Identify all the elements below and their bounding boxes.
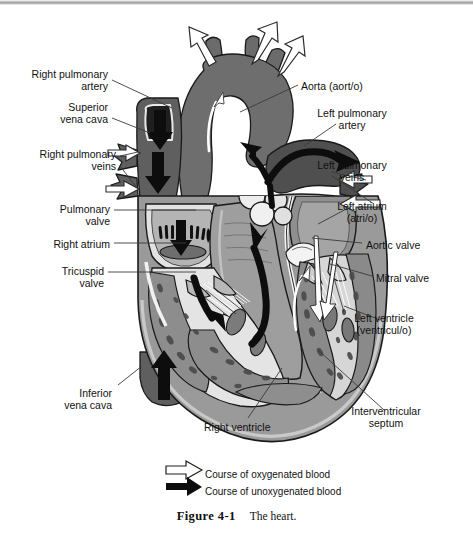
label-left-ventricle: Left ventricle (ventricul/o): [324, 312, 444, 337]
legend-icons-group: [166, 461, 202, 496]
label-interventricular-septum: Interventricular septum: [326, 405, 446, 430]
label-aortic-valve: Aortic valve: [366, 239, 420, 251]
label-right-pulmonary-veins: Right pulmonary veins: [40, 148, 116, 173]
label-pulmonary-valve: Pulmonary valve: [60, 203, 110, 228]
leader-inferior-vena-cava: [118, 366, 142, 385]
figure-number: Figure 4-1: [177, 509, 236, 523]
figure-page: Right pulmonary arterySuperior vena cava…: [0, 0, 473, 534]
legend-unoxygenated-label: Course of unoxygenated blood: [205, 486, 341, 497]
label-inferior-vena-cava: Inferior vena cava: [64, 387, 112, 412]
label-mitral-valve: Mitral valve: [376, 272, 429, 284]
legend-hollow-arrow-icon: [166, 461, 202, 479]
legend-solid-arrow-icon: [166, 477, 202, 496]
label-left-pulmonary-veins: Left pulmonary veins: [292, 159, 412, 184]
label-right-ventricle: Right ventricle: [204, 421, 271, 433]
figure-caption-text: The heart.: [250, 510, 297, 522]
figure-caption: Figure 4-1The heart.: [0, 509, 473, 524]
label-right-atrium: Right atrium: [53, 238, 110, 250]
label-right-pulmonary-artery: Right pulmonary artery: [32, 68, 108, 93]
label-left-pulmonary-artery: Left pulmonary artery: [292, 107, 412, 132]
label-tricuspid-valve: Tricuspid valve: [62, 265, 104, 290]
label-left-atrium: Left atrium (atri/o): [302, 200, 422, 225]
label-superior-vena-cava: Superior vena cava: [60, 101, 108, 126]
arrow-trunk-down: [270, 186, 272, 206]
label-aorta: Aorta (aort/o): [301, 80, 363, 92]
legend-oxygenated-label: Course of oxygenated blood: [205, 469, 330, 480]
